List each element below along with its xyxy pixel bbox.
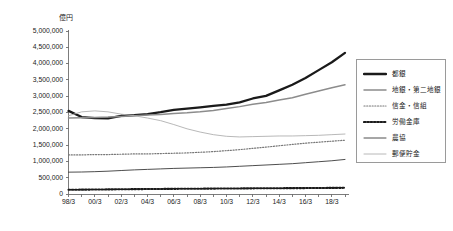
legend-label: 地銀・第二地銀 (392, 85, 441, 95)
series-line (69, 140, 346, 155)
legend-label: 郵便貯金 (392, 149, 420, 159)
legend-key-icon (363, 85, 387, 95)
series-line (69, 85, 346, 118)
legend-label: 都銀 (392, 69, 406, 79)
legend-key-icon (363, 69, 387, 79)
legend-item: 農協 (363, 130, 440, 146)
legend-item: 信金・信組 (363, 98, 440, 114)
legend-item: 地銀・第二地銀 (363, 82, 440, 98)
legend-item: 労働金庫 (363, 114, 440, 130)
series-line (69, 53, 346, 119)
legend-label: 農協 (392, 133, 406, 143)
series-line (69, 188, 346, 190)
series-line (69, 159, 346, 172)
legend-key-icon (363, 117, 387, 127)
chart-legend: 都銀地銀・第二地銀信金・信組労働金庫農協郵便貯金 (356, 59, 446, 163)
chart-figure: 億円 5,000,0004,500,0004,000,0003,500,0003… (0, 0, 453, 231)
legend-label: 信金・信組 (392, 101, 427, 111)
legend-item: 郵便貯金 (363, 146, 440, 162)
legend-key-icon (363, 149, 387, 159)
legend-key-icon (363, 101, 387, 111)
legend-item: 都銀 (363, 66, 440, 82)
legend-key-icon (363, 133, 387, 143)
legend-label: 労働金庫 (392, 117, 420, 127)
series-line (69, 111, 346, 137)
axes (66, 30, 350, 197)
data-series-group (69, 53, 346, 190)
